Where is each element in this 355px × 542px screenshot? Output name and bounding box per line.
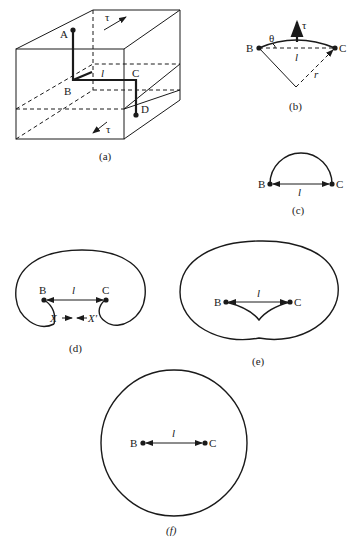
- segment-x-prime: [99, 300, 106, 322]
- label-l: l: [72, 284, 75, 296]
- block-top-face: [16, 10, 180, 49]
- label-l: l: [101, 67, 104, 79]
- caption-d: (d): [69, 342, 82, 355]
- semicircle-loop: [270, 153, 332, 184]
- slip-plane-diagonal: [16, 90, 93, 139]
- point-c: [103, 297, 108, 302]
- label-c: C: [339, 42, 346, 54]
- label-l: l: [298, 186, 301, 198]
- label-tau: τ: [302, 19, 307, 31]
- expanding-loop: [16, 250, 145, 326]
- point-b: [140, 440, 145, 445]
- label-x-prime: X′: [87, 312, 98, 324]
- point-c: [202, 440, 207, 445]
- panel-b: B C θ l r τ (b): [246, 19, 346, 113]
- theta-arc: [273, 44, 275, 48]
- label-d: D: [141, 103, 149, 115]
- label-c: C: [102, 284, 109, 296]
- label-c: C: [336, 178, 343, 190]
- point-c: [287, 299, 292, 304]
- inner-regenerated-segment: [226, 302, 290, 320]
- slip-plane-upper: [16, 64, 180, 109]
- label-l: l: [295, 51, 298, 63]
- label-l: l: [172, 427, 175, 439]
- label-b: B: [39, 284, 46, 296]
- caption-b: (b): [289, 100, 302, 113]
- label-a: A: [60, 28, 68, 40]
- label-theta: θ: [269, 32, 274, 44]
- point-a: [70, 27, 75, 32]
- dislocation-segment-bc-oblique: [73, 72, 92, 80]
- caption-e: (e): [252, 355, 265, 368]
- point-c: [332, 45, 337, 50]
- label-b: B: [258, 178, 265, 190]
- point-b: [41, 297, 46, 302]
- label-tau-bottom: τ: [106, 123, 111, 135]
- dislocation-line-abcd: [73, 30, 136, 114]
- label-tau-top: τ: [105, 11, 110, 23]
- point-b: [267, 181, 272, 186]
- point-b: [223, 299, 228, 304]
- label-c: C: [132, 67, 139, 79]
- panel-d: B C l X X′ (d): [16, 250, 145, 355]
- point-c: [329, 181, 334, 186]
- caption-c: (c): [292, 204, 305, 217]
- label-c: C: [294, 296, 301, 308]
- panel-e: B C l (e): [180, 241, 338, 368]
- panel-c: B C l (c): [258, 153, 343, 217]
- frank-read-source-diagram: A B C D l τ τ (a) B C θ l r τ (b) B C: [0, 0, 355, 542]
- caption-a: (a): [99, 150, 112, 163]
- caption-f: (f): [166, 524, 177, 537]
- label-l: l: [257, 287, 260, 299]
- label-c: C: [209, 437, 216, 449]
- panel-a: A B C D l τ τ (a): [16, 10, 180, 163]
- label-b: B: [214, 296, 221, 308]
- label-b: B: [64, 85, 71, 97]
- point-b: [256, 45, 261, 50]
- label-r: r: [314, 68, 319, 80]
- label-x: X: [49, 312, 58, 324]
- label-b: B: [246, 42, 253, 54]
- label-b: B: [130, 437, 137, 449]
- panel-f: B C l (f): [101, 370, 247, 537]
- point-d: [133, 112, 138, 117]
- tau-arrow-bottom: [93, 122, 107, 133]
- radius-b: [259, 48, 296, 87]
